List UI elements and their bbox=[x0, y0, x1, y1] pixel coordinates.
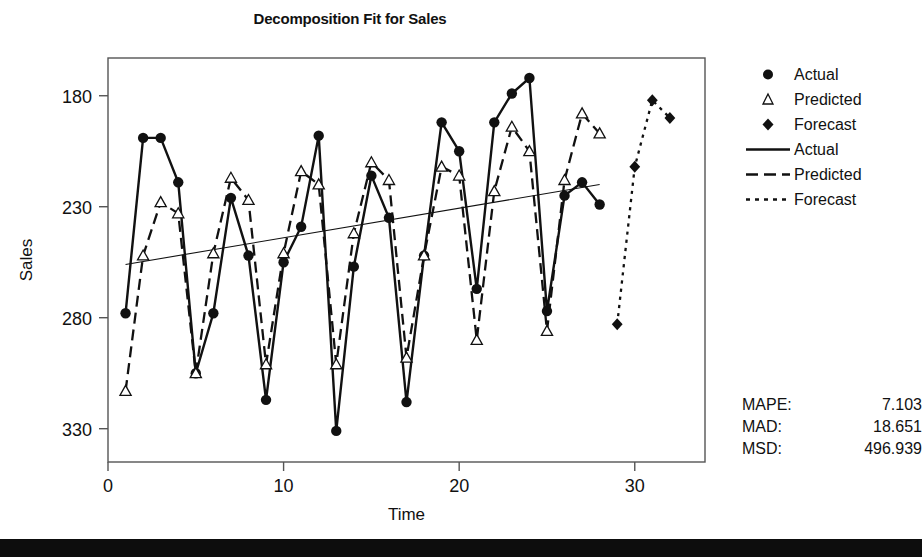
y-tick-label: 330 bbox=[62, 420, 92, 440]
legend-label: Forecast bbox=[794, 187, 856, 212]
data-point-actual bbox=[384, 213, 394, 223]
data-point-actual bbox=[296, 222, 306, 232]
data-point-predicted bbox=[348, 228, 359, 238]
y-tick-label: 280 bbox=[62, 309, 92, 329]
series-line-forecast bbox=[617, 100, 670, 324]
data-point-predicted bbox=[366, 157, 377, 167]
measure-name: MAPE: bbox=[742, 394, 792, 416]
data-point-actual bbox=[436, 117, 446, 127]
data-point-actual bbox=[454, 146, 464, 156]
measure-value: 7.103 bbox=[882, 394, 922, 416]
data-point-predicted bbox=[506, 121, 517, 131]
chart-page: Decomposition Fit for Sales 330280230180… bbox=[0, 0, 922, 557]
measure-row: MAPE: 7.103 bbox=[742, 394, 922, 416]
legend-item-predicted-marker[interactable]: Predicted bbox=[742, 87, 922, 112]
y-tick-label: 230 bbox=[62, 198, 92, 218]
data-point-actual bbox=[226, 193, 236, 203]
data-point-actual bbox=[331, 426, 341, 436]
legend-item-predicted-line[interactable]: Predicted bbox=[742, 162, 922, 187]
footer-bar bbox=[0, 539, 922, 557]
legend-label: Actual bbox=[794, 62, 838, 87]
open-triangle-icon bbox=[742, 87, 794, 112]
filled-circle-icon bbox=[742, 62, 794, 87]
y-tick-label: 180 bbox=[62, 87, 92, 107]
x-axis-label: Time bbox=[388, 505, 425, 524]
data-point-forecast bbox=[612, 318, 623, 330]
x-tick-label: 30 bbox=[625, 476, 645, 496]
measure-name: MAD: bbox=[742, 416, 782, 438]
data-point-predicted bbox=[436, 161, 447, 171]
data-point-predicted bbox=[576, 108, 587, 118]
data-point-actual bbox=[208, 308, 218, 318]
data-point-actual bbox=[155, 133, 165, 143]
data-point-forecast bbox=[629, 161, 640, 173]
solid-line-icon bbox=[742, 137, 794, 162]
filled-diamond-icon bbox=[742, 112, 794, 137]
data-point-actual bbox=[542, 306, 552, 316]
data-point-predicted bbox=[138, 250, 149, 260]
legend-label: Predicted bbox=[794, 87, 862, 112]
legend-item-forecast-line[interactable]: Forecast bbox=[742, 187, 922, 212]
data-point-actual bbox=[594, 199, 604, 209]
data-point-actual bbox=[120, 308, 130, 318]
legend-label: Predicted bbox=[794, 162, 862, 187]
data-point-actual bbox=[138, 133, 148, 143]
data-point-actual bbox=[261, 395, 271, 405]
legend-item-actual-marker[interactable]: Actual bbox=[742, 62, 922, 87]
x-tick-label: 10 bbox=[274, 476, 294, 496]
data-point-predicted bbox=[296, 166, 307, 176]
data-point-actual bbox=[243, 250, 253, 260]
data-point-actual bbox=[366, 170, 376, 180]
data-point-actual bbox=[507, 88, 517, 98]
measure-row: MSD: 496.939 bbox=[742, 438, 922, 460]
legend: Actual Predicted Forecast Actual Predict… bbox=[742, 62, 922, 212]
data-point-actual bbox=[314, 130, 324, 140]
x-tick-label: 20 bbox=[449, 476, 469, 496]
data-point-actual bbox=[349, 261, 359, 271]
data-point-predicted bbox=[383, 174, 394, 184]
data-point-actual bbox=[524, 73, 534, 83]
measure-value: 496.939 bbox=[864, 438, 922, 460]
data-point-actual bbox=[173, 177, 183, 187]
data-point-predicted bbox=[225, 172, 236, 182]
data-point-actual bbox=[559, 190, 569, 200]
y-axis-label: Sales bbox=[17, 239, 36, 282]
data-point-forecast bbox=[647, 94, 658, 106]
legend-label: Actual bbox=[794, 137, 838, 162]
legend-item-actual-line[interactable]: Actual bbox=[742, 137, 922, 162]
dotted-line-icon bbox=[742, 187, 794, 212]
data-point-predicted bbox=[489, 186, 500, 196]
data-point-predicted bbox=[471, 334, 482, 344]
measure-name: MSD: bbox=[742, 438, 782, 460]
data-point-actual bbox=[489, 117, 499, 127]
data-point-predicted bbox=[541, 325, 552, 335]
data-point-actual bbox=[278, 257, 288, 267]
legend-item-forecast-marker[interactable]: Forecast bbox=[742, 112, 922, 137]
dashed-line-icon bbox=[742, 162, 794, 187]
measure-value: 18.651 bbox=[873, 416, 922, 438]
measure-row: MAD: 18.651 bbox=[742, 416, 922, 438]
x-tick-label: 0 bbox=[103, 476, 113, 496]
legend-label: Forecast bbox=[794, 112, 856, 137]
data-point-actual bbox=[472, 284, 482, 294]
data-point-predicted bbox=[120, 385, 131, 395]
data-point-actual bbox=[401, 397, 411, 407]
data-point-predicted bbox=[559, 174, 570, 184]
data-point-actual bbox=[577, 177, 587, 187]
accuracy-measures: MAPE: 7.103 MAD: 18.651 MSD: 496.939 bbox=[742, 394, 922, 460]
data-point-predicted bbox=[155, 197, 166, 207]
